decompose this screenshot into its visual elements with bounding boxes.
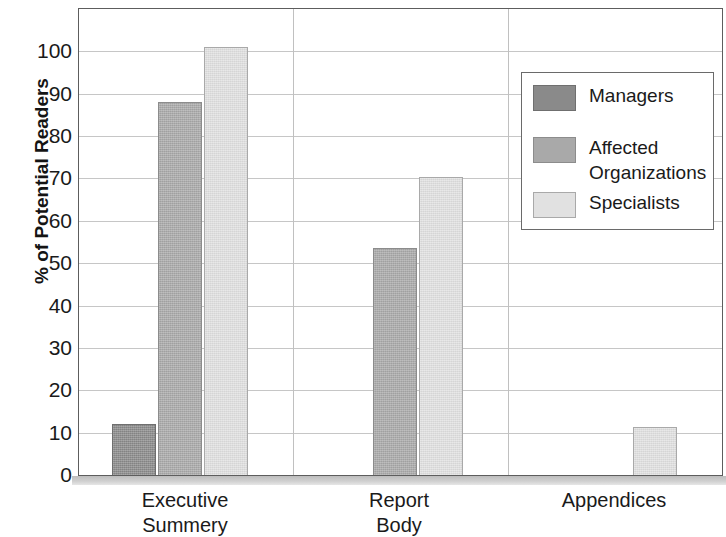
legend-item: Specialists [533,190,680,218]
bar [633,427,677,475]
bar [158,102,202,475]
legend-item: Managers [533,83,674,111]
bar [204,47,248,475]
legend-swatch [533,192,576,218]
y-axis-tick-label: 70 [26,167,72,188]
x-axis-tick-label: ReportBody [292,488,506,537]
x-axis-tick-labels: ExecutiveSummeryReportBodyAppendices [78,488,723,537]
bar [373,248,417,475]
y-axis-tick-labels: 0102030405060708090100 [14,0,72,537]
category-separator [508,9,509,475]
x-axis-tick-label: Appendices [507,488,721,513]
y-axis-tick-label: 100 [26,40,72,61]
category-separator [293,9,294,475]
y-axis-tick-label: 40 [26,295,72,316]
chart-legend: ManagersAffected OrganizationsSpecialist… [521,72,714,230]
legend-label: Specialists [589,190,680,215]
legend-swatch [533,137,576,163]
y-axis-tick-label: 10 [26,422,72,443]
x-axis-tick-label-line: Executive [78,488,292,513]
x-axis-tick-label-line: Report [292,488,506,513]
x-axis-tick-label: ExecutiveSummery [78,488,292,537]
y-axis-tick-label: 80 [26,125,72,146]
x-axis-tick-label-line: Body [292,513,506,537]
x-axis-tick-label-line: Appendices [507,488,721,513]
y-axis-tick-label: 50 [26,252,72,273]
legend-swatch [533,85,576,111]
y-axis-tick-label: 60 [26,210,72,231]
bar [419,177,463,475]
y-axis-tick-label: 90 [26,83,72,104]
legend-label: Affected Organizations [589,135,706,185]
bar [112,424,156,475]
y-axis-tick-label: 0 [26,464,72,485]
x-axis-tick-label-line: Summery [78,513,292,537]
x-axis-baseline [72,476,726,485]
y-axis-tick-label: 30 [26,337,72,358]
bar-chart: % of Potential Readers 01020304050607080… [0,0,726,537]
gridline [79,51,722,52]
legend-item: Affected Organizations [533,135,706,185]
y-axis-tick-label: 20 [26,379,72,400]
legend-label: Managers [589,83,674,108]
